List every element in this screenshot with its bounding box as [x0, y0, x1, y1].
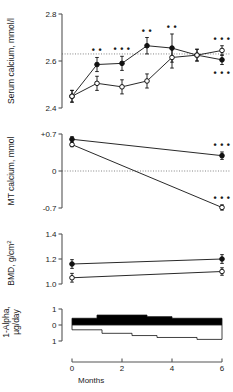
- mt-calcium-y-tick-label: -0.7: [43, 204, 57, 213]
- one-alpha-dose-closed-group-dose-area: [72, 315, 222, 325]
- serum-calcium-y-tick-label: 2.6: [45, 57, 57, 66]
- figure-container: 2.42.62.8• •• • •• •• •• • •• • •Serum c…: [0, 0, 233, 392]
- bmd-open-circle-marker: [220, 269, 225, 274]
- one-alpha-dose-open-group-dose-area: [72, 325, 222, 339]
- one-alpha-dose-y-tick-label: 0: [52, 321, 57, 330]
- one-alpha-dose-y-axis-label-line2: µg/day: [11, 308, 21, 334]
- bmd-y-axis-label: BMD, g/cm2: [6, 240, 16, 286]
- bmd-open-circle-marker: [70, 275, 75, 280]
- serum-calcium-open-circle-marker: [95, 81, 100, 86]
- x-tick-label: 4: [170, 364, 175, 373]
- one-alpha-dose-y-tick-label: 1: [52, 305, 57, 314]
- serum-calcium-open-circle-marker: [170, 55, 175, 60]
- serum-calcium-y-tick-label: 2.4: [45, 104, 57, 113]
- one-alpha-dose-y-tick-label: 1: [52, 337, 57, 346]
- serum-calcium-open-circle-marker: [145, 79, 150, 84]
- mt-calcium-closed-circle-marker: [220, 153, 225, 158]
- bmd-closed-circle-marker: [220, 257, 225, 262]
- serum-calcium-significance-marker: • •: [142, 26, 152, 36]
- x-axis-label: Months: [78, 376, 104, 385]
- bmd-closed-circle-line: [72, 259, 222, 264]
- serum-calcium-significance-marker: • •: [92, 45, 102, 55]
- mt-calcium-y-tick-label: 0: [52, 167, 57, 176]
- x-tick-label: 6: [220, 364, 225, 373]
- serum-calcium-open-circle-marker: [195, 53, 200, 58]
- mt-calcium-open-circle-marker: [70, 142, 75, 147]
- mt-calcium-open-circle-line: [72, 145, 222, 208]
- mt-calcium-y-axis-label: MT calcium, mmol: [6, 136, 16, 205]
- serum-calcium-significance-marker: • •: [167, 22, 177, 32]
- serum-calcium-significance-marker: • • •: [114, 44, 131, 54]
- bmd-closed-circle-marker: [70, 262, 75, 267]
- serum-calcium-y-tick-label: 2.8: [45, 10, 57, 19]
- bmd-y-tick-label: 1.0: [45, 280, 57, 289]
- x-tick-label: 0: [70, 364, 75, 373]
- serum-calcium-closed-circle-marker: [220, 58, 225, 63]
- x-tick-label: 2: [120, 364, 125, 373]
- mt-calcium-closed-circle-line: [72, 139, 222, 155]
- serum-calcium-significance-marker: • • •: [214, 68, 231, 78]
- serum-calcium-closed-circle-marker: [95, 62, 100, 67]
- mt-calcium-open-circle-marker: [220, 205, 225, 210]
- serum-calcium-open-circle-marker: [120, 85, 125, 90]
- multi-panel-figure: 2.42.62.8• •• • •• •• •• • •• • •Serum c…: [0, 0, 233, 392]
- mt-calcium-closed-circle-marker: [70, 137, 75, 142]
- serum-calcium-y-axis-label: Serum calcium, mmol/l: [6, 18, 16, 104]
- bmd-y-tick-label: 1.2: [45, 255, 57, 264]
- serum-calcium-closed-circle-marker: [120, 61, 125, 66]
- serum-calcium-closed-circle-marker: [145, 43, 150, 48]
- bmd-open-circle-line: [72, 272, 222, 278]
- serum-calcium-open-circle-marker: [70, 94, 75, 99]
- serum-calcium-open-circle-line: [72, 50, 222, 96]
- mt-calcium-significance-marker: • • •: [214, 140, 231, 150]
- serum-calcium-significance-marker: • • •: [214, 34, 231, 44]
- one-alpha-dose-y-axis-label-line1: 1-Alpha,: [1, 306, 11, 338]
- mt-calcium-y-tick-label: +0.7: [41, 130, 57, 139]
- serum-calcium-open-circle-marker: [220, 48, 225, 53]
- bmd-y-tick-label: 1.4: [45, 230, 57, 239]
- mt-calcium-significance-marker: • • •: [214, 193, 231, 203]
